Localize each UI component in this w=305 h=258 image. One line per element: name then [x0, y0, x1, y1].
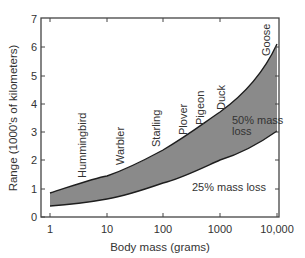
y-tick-label: 0 — [31, 211, 37, 223]
y-tick-label: 5 — [31, 70, 37, 82]
range-vs-mass-chart: 0 1 2 3 4 5 6 7 1 10 100 1000 10,000 Bod… — [0, 0, 305, 258]
x-tick-label: 10,000 — [260, 223, 294, 235]
y-tick-label: 4 — [31, 98, 37, 110]
label-50-percent-line2: loss — [232, 125, 252, 137]
y-axis-title: Range (1000's of kilometers) — [7, 45, 19, 192]
bird-label-plover: Plover — [177, 103, 189, 135]
x-tick-label: 100 — [154, 223, 172, 235]
bird-label-hummingbird: Hummingbird — [76, 113, 88, 178]
y-tick-label: 2 — [31, 154, 37, 166]
x-tick-label: 10 — [101, 223, 113, 235]
y-tick-label: 1 — [31, 183, 37, 195]
x-tick-label: 1 — [47, 223, 53, 235]
x-tick-label: 1000 — [208, 223, 232, 235]
bird-label-warbler: Warbler — [114, 127, 126, 165]
bird-label-pigeon: Pigeon — [194, 91, 206, 125]
y-tick-label: 6 — [31, 41, 37, 53]
y-tick-label: 3 — [31, 126, 37, 138]
y-tick-label: 7 — [31, 13, 37, 25]
x-axis-title: Body mass (grams) — [110, 241, 210, 253]
bird-label-goose: Goose — [260, 24, 272, 56]
label-25-percent: 25% mass loss — [192, 181, 266, 193]
bird-label-duck: Duck — [215, 84, 227, 110]
bird-label-starling: Starling — [150, 110, 162, 147]
